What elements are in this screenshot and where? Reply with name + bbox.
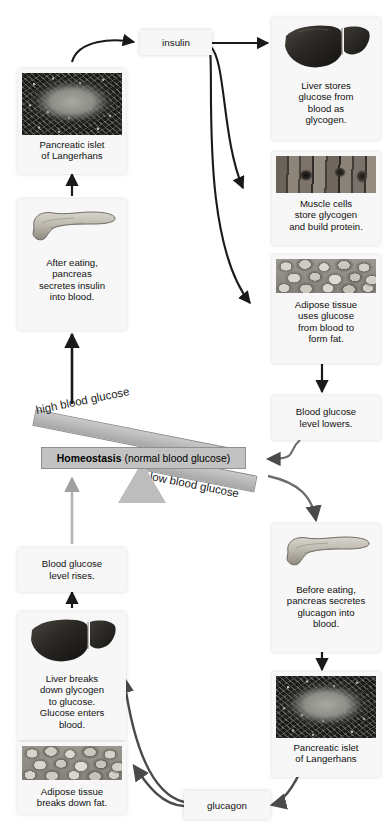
arrow-low-glucose-to-pancreas bbox=[268, 476, 316, 520]
liver-breaks-caption-5: blood. bbox=[21, 719, 123, 730]
liver-breaks-caption-4: Glucose enters bbox=[21, 707, 123, 718]
pancreas-illustration-icon bbox=[26, 203, 118, 245]
arrow-insulin-to-muscle bbox=[211, 47, 243, 188]
arrow-glucagon-to-adipose bbox=[134, 766, 184, 806]
card-pancreas-after-eating: After eating, pancreas secretes insulin … bbox=[18, 199, 126, 330]
liver-breaks-caption-2: down glycogen bbox=[21, 684, 123, 695]
muscle-caption-3: and build protein. bbox=[275, 221, 377, 232]
glucose-rises-caption-2: level rises. bbox=[21, 570, 123, 581]
liver-illustration-icon bbox=[26, 616, 118, 666]
liver-stores-caption-4: glycogen. bbox=[275, 114, 377, 125]
islet-lower-caption-2: of Langerhans bbox=[275, 753, 377, 764]
glucagon-text: glucagon bbox=[207, 800, 247, 811]
card-adipose-breaks-fat: Adipose tissue breaks down fat. bbox=[18, 742, 126, 814]
pancreas-after-eating-caption-2: pancreas bbox=[21, 268, 123, 279]
card-islet-upper: Pancreatic islet of Langerhans bbox=[18, 69, 126, 174]
hormone-insulin-label: insulin bbox=[140, 30, 212, 55]
liver-breaks-caption-1: Liver breaks bbox=[21, 673, 123, 684]
islet-upper-caption-2: of Langerhans bbox=[21, 150, 123, 161]
pancreas-before-eating-caption-1: Before eating, bbox=[275, 584, 377, 595]
label-high-blood-glucose: high blood glucose bbox=[35, 385, 130, 416]
arrow-islet-to-insulin bbox=[72, 40, 134, 62]
card-muscle-cells: Muscle cells store glycogen and build pr… bbox=[272, 152, 380, 245]
liver-stores-caption-3: blood as bbox=[275, 103, 377, 114]
muscle-micrograph-icon bbox=[276, 156, 376, 193]
adipose-uses-caption-1: Adipose tissue bbox=[275, 299, 377, 310]
homeostasis-bold-text: Homeostasis bbox=[57, 453, 122, 464]
card-pancreas-before-eating: Before eating, pancreas secretes glucago… bbox=[272, 524, 380, 652]
arrow-lowers-to-homeostasis bbox=[268, 440, 300, 459]
card-glucose-lowers: Blood glucose level lowers. bbox=[272, 396, 380, 440]
muscle-caption-1: Muscle cells bbox=[275, 198, 377, 209]
card-adipose-uses-glucose: Adipose tissue uses glucose from blood t… bbox=[272, 255, 380, 363]
hormone-glucagon-label: glucagon bbox=[184, 791, 270, 819]
pancreas-before-eating-caption-3: glucagon into bbox=[275, 607, 377, 618]
liver-stores-caption-1: Liver stores bbox=[275, 80, 377, 91]
pancreas-before-eating-caption-4: blood. bbox=[275, 618, 377, 629]
adipose-breaks-caption-1: Adipose tissue bbox=[21, 786, 123, 797]
adipose-micrograph-icon bbox=[276, 259, 376, 293]
adipose-micrograph-icon bbox=[22, 746, 122, 780]
liver-breaks-caption-3: to glucose. bbox=[21, 696, 123, 707]
liver-illustration-icon bbox=[280, 22, 372, 72]
adipose-uses-caption-2: uses glucose bbox=[275, 310, 377, 321]
card-liver-breaks-down: Liver breaks down glycogen to glucose. G… bbox=[18, 612, 126, 740]
adipose-uses-caption-4: form fat. bbox=[275, 333, 377, 344]
pancreas-after-eating-caption-1: After eating, bbox=[21, 257, 123, 268]
card-liver-stores: Liver stores glucose from blood as glyco… bbox=[272, 18, 380, 140]
card-glucose-rises: Blood glucose level rises. bbox=[18, 548, 126, 592]
islet-upper-caption-1: Pancreatic islet bbox=[21, 139, 123, 150]
glucose-homeostasis-diagram: insulin Pancreatic islet of Langerhans A… bbox=[0, 0, 391, 831]
glucose-lowers-caption-2: level lowers. bbox=[275, 418, 377, 429]
pancreas-illustration-icon bbox=[280, 528, 372, 570]
islet-micrograph-icon bbox=[276, 676, 376, 738]
glucose-rises-caption-1: Blood glucose bbox=[21, 558, 123, 569]
glucose-lowers-caption-1: Blood glucose bbox=[275, 406, 377, 417]
homeostasis-normal-text: (normal blood glucose) bbox=[124, 453, 230, 464]
arrow-insulin-to-adipose bbox=[210, 50, 250, 303]
islet-lower-caption-1: Pancreatic islet bbox=[275, 742, 377, 753]
muscle-caption-2: store glycogen bbox=[275, 209, 377, 220]
card-islet-lower: Pancreatic islet of Langerhans bbox=[272, 672, 380, 777]
pancreas-after-eating-caption-4: into blood. bbox=[21, 291, 123, 302]
pancreas-before-eating-caption-2: pancreas secretes bbox=[275, 595, 377, 606]
homeostasis-bar: Homeostasis(normal blood glucose) bbox=[41, 447, 246, 469]
adipose-uses-caption-3: from blood to bbox=[275, 322, 377, 333]
insulin-text: insulin bbox=[162, 37, 190, 48]
liver-stores-caption-2: glucose from bbox=[275, 91, 377, 102]
islet-micrograph-icon bbox=[22, 73, 122, 135]
arrow-glucagon-to-liver bbox=[124, 678, 184, 802]
pancreas-after-eating-caption-3: secretes insulin bbox=[21, 280, 123, 291]
adipose-breaks-caption-2: breaks down fat. bbox=[21, 797, 123, 808]
